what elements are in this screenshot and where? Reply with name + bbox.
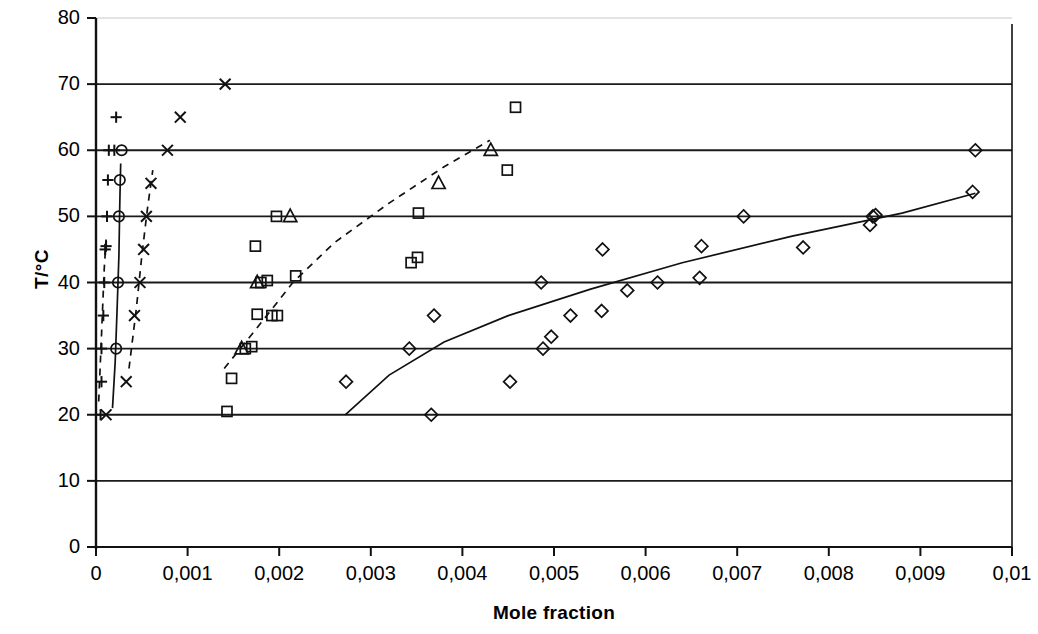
diamond-marker — [596, 243, 609, 256]
diamond-marker — [797, 241, 810, 254]
square-marker — [252, 309, 262, 319]
diamond-marker — [545, 330, 558, 343]
square-marker — [227, 373, 237, 383]
diamond-marker — [564, 309, 577, 322]
plus-marker — [96, 376, 107, 387]
fit-cross-dashed — [129, 170, 153, 368]
fit-diamond-solid — [345, 193, 975, 415]
plus-marker — [101, 211, 112, 222]
diamond-marker — [504, 375, 517, 388]
fit-square-dashed — [224, 140, 490, 368]
triangle-marker — [432, 176, 445, 188]
plus-marker — [102, 174, 113, 185]
cross-marker — [129, 310, 140, 321]
plus-marker — [98, 310, 109, 321]
diamond-marker — [966, 186, 979, 199]
plus-marker — [111, 112, 122, 123]
diamond-marker — [695, 240, 708, 253]
plot-area — [0, 0, 1038, 634]
square-marker — [250, 241, 260, 251]
diamond-marker — [340, 375, 353, 388]
triangle-marker — [484, 143, 497, 155]
diamond-marker — [428, 309, 441, 322]
diamond-marker — [621, 284, 634, 297]
plus-marker — [96, 343, 107, 354]
square-marker — [511, 102, 521, 112]
diamond-marker — [595, 305, 608, 318]
triangle-marker — [284, 209, 297, 221]
cross-marker — [121, 376, 132, 387]
series-cross — [101, 79, 231, 420]
axis-lines — [94, 18, 1012, 549]
series-triangle — [235, 143, 497, 354]
gridlines — [96, 18, 1012, 547]
square-marker — [502, 165, 512, 175]
plus-marker — [99, 277, 110, 288]
axis-ticks — [87, 18, 1012, 556]
cross-marker — [175, 112, 186, 123]
chart-container: T/°C Mole fraction 01020304050607080 00,… — [0, 0, 1038, 634]
data-markers — [95, 79, 982, 421]
